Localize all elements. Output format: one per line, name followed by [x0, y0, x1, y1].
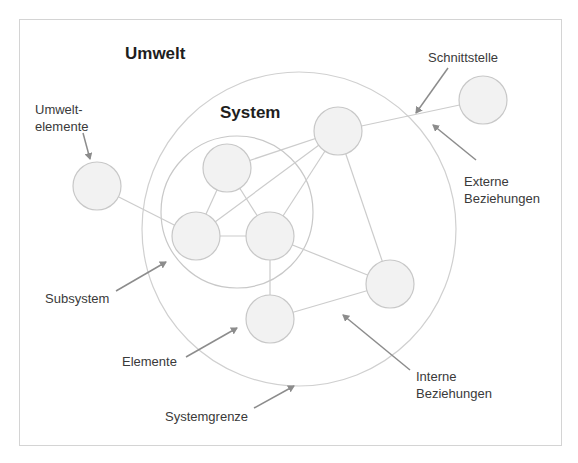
environment-element-left	[73, 162, 121, 210]
element-subsystem-left	[172, 212, 220, 260]
element-system-bottom	[246, 295, 294, 343]
element-system-top	[314, 107, 362, 155]
element-subsystem-right	[246, 212, 294, 260]
arrow-internal-relations	[343, 315, 410, 370]
system-title: System	[220, 103, 280, 123]
interface-label: Schnittstelle	[428, 49, 498, 66]
element-system-right	[366, 260, 414, 308]
system-boundary-label: Systemgrenze	[165, 408, 248, 425]
elements-label: Elemente	[122, 353, 177, 370]
environment-element-right	[459, 76, 507, 124]
subsystem-label: Subsystem	[45, 290, 109, 307]
arrow-subsystem	[116, 262, 166, 291]
arrow-interface	[416, 68, 448, 113]
arrow-environment-elements	[83, 133, 90, 159]
arrow-system-boundary	[254, 386, 294, 408]
element-subsystem-top	[203, 144, 251, 192]
arrow-external-relations	[433, 125, 476, 160]
internal-relations-label: Interne Beziehungen	[416, 368, 492, 402]
arrow-elements	[186, 328, 237, 357]
relations	[97, 100, 483, 319]
environment-title: Umwelt	[125, 44, 185, 64]
environment-elements-label: Umwelt- elemente	[35, 101, 88, 135]
external-relations-label: Externe Beziehungen	[464, 173, 540, 207]
